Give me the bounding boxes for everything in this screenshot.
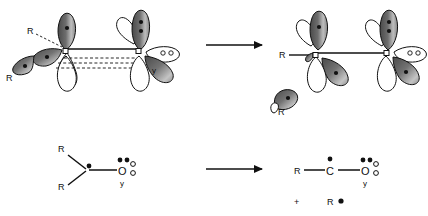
reactant-right-upper-electron-1 <box>139 20 143 24</box>
reactant-right-hollow-electron-2 <box>169 51 173 55</box>
diagram-canvas: R R <box>0 0 428 216</box>
lewis-reactant-oxygen-hollow-dot-1 <box>131 162 136 167</box>
product-right-nucleus <box>384 51 389 56</box>
lewis-reactant-oxygen-hollow-dot-2 <box>131 171 136 176</box>
lewis-product-radical-fragment-label: R <box>327 197 334 207</box>
lewis-reactant-bond-bottom <box>68 171 86 185</box>
reactant-left-angled-electron <box>45 55 49 59</box>
lewis-reactant-substituent-top: R <box>58 144 65 154</box>
ejected-radical-orbital: R <box>271 90 298 117</box>
lewis-product-oxygen-filled-dot-2 <box>368 158 373 163</box>
ejected-radical-label: R <box>278 107 285 117</box>
reactant-left-substituent-label-2: R <box>6 73 13 83</box>
reactant-right-nucleus <box>136 49 141 54</box>
product-right-upper-electron-1 <box>387 20 391 24</box>
lewis-reactant-oxygen-filled-dot-1 <box>118 158 123 163</box>
lewis-product: R C O y + R <box>294 157 378 207</box>
lewis-product-oxygen-hollow-dot-2 <box>374 171 379 176</box>
lewis-product-substituent-left: R <box>294 166 301 176</box>
orbital-product-complex: R R <box>271 10 427 117</box>
product-left-upper-electron <box>317 25 321 29</box>
reactant-left-angled-lobe-inner <box>33 49 62 66</box>
product-right-lower-electron <box>404 70 408 74</box>
lewis-product-oxygen-symbol: O <box>361 165 370 177</box>
lewis-product-carbon-radical-dot <box>328 157 333 162</box>
reaction-scheme-svg: R R <box>0 0 428 216</box>
product-left-lower-electron <box>334 71 338 75</box>
reactant-left-outer-electron <box>23 64 27 68</box>
product-right-upper-electron-2 <box>387 29 391 33</box>
lewis-reactant-oxygen-symbol: O <box>118 165 127 177</box>
product-left-nucleus <box>313 53 318 58</box>
reactant-left-upper-electron <box>65 26 69 30</box>
lewis-product-oxygen-sub-label: y <box>363 179 367 188</box>
reactant-left-substituent-label-1: R <box>27 26 34 36</box>
lewis-reactant-oxygen-filled-dot-2 <box>125 158 130 163</box>
lewis-product-oxygen-filled-dot-1 <box>361 158 366 163</box>
reactant-left-upper-lobe <box>58 13 76 50</box>
product-right-hollow-electron-1 <box>408 51 412 55</box>
lewis-product-carbon-symbol: C <box>326 165 334 177</box>
reactant-left-angled-lobe-outer <box>13 56 34 75</box>
product-left-substituent-label: R <box>279 50 286 60</box>
lewis-reactant-carbon-radical-dot <box>87 164 92 169</box>
lewis-reactant-substituent-bottom: R <box>58 182 65 192</box>
lewis-reactant: R R O y <box>58 144 135 192</box>
lewis-reactant-bond-top <box>68 155 86 169</box>
product-right-upper-lobe <box>380 10 398 50</box>
reactant-right-upper-electron-2 <box>139 29 143 33</box>
reactant-left-nucleus <box>63 49 68 54</box>
lewis-product-oxygen-hollow-dot-1 <box>374 162 379 167</box>
ejected-radical-electron <box>286 96 290 100</box>
product-left-upper-lobe <box>310 11 328 50</box>
reactant-right-y-label: y <box>152 66 156 75</box>
lewis-product-radical-fragment-dot <box>338 198 343 203</box>
reactant-left-lower-empty-lobe <box>57 56 76 91</box>
lewis-reactant-oxygen-sub-label: y <box>120 179 124 188</box>
orbital-reactant-complex: R R <box>6 10 179 91</box>
reactant-right-hollow-electron-1 <box>161 51 165 55</box>
reactant-right-upper-lobe <box>132 10 150 50</box>
product-left-small-lobe <box>305 53 313 62</box>
product-right-hollow-electron-2 <box>416 51 420 55</box>
lewis-product-plus-sign: + <box>294 197 299 207</box>
